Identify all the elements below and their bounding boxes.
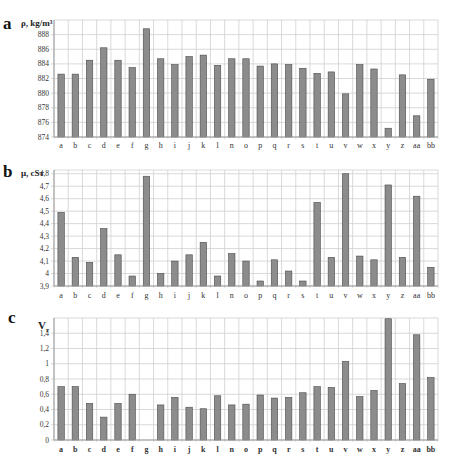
- bar-h: [157, 405, 163, 440]
- x-tick-label: c: [88, 445, 92, 454]
- x-tick-label: o: [244, 445, 248, 454]
- plot-area: 00,20,40,60,811,21,4abcdefghijklnopqrstu…: [40, 318, 438, 454]
- bar-w: [357, 397, 363, 440]
- x-tick-label: r: [287, 445, 291, 454]
- x-tick-label: j: [187, 445, 191, 454]
- bar-r: [285, 397, 291, 440]
- bar-e: [115, 403, 121, 440]
- x-tick-label: x: [372, 445, 376, 454]
- x-tick-label: u: [329, 445, 334, 454]
- bar-y: [385, 319, 391, 440]
- y-tick-label: 0,2: [40, 420, 50, 429]
- x-tick-label: f: [131, 445, 134, 454]
- x-tick-label: d: [102, 445, 107, 454]
- y-tick-label: 0,6: [40, 390, 50, 399]
- x-tick-label: h: [158, 445, 163, 454]
- x-tick-label: n: [230, 445, 235, 454]
- bar-o: [243, 404, 249, 440]
- bar-bb: [428, 377, 434, 440]
- bar-x: [371, 390, 377, 440]
- y-tick-label: 1,2: [40, 344, 50, 353]
- x-tick-label: w: [357, 445, 363, 454]
- bar-i: [172, 397, 178, 440]
- x-tick-label: t: [316, 445, 319, 454]
- x-tick-label: s: [301, 445, 304, 454]
- bar-j: [186, 407, 192, 440]
- bar-l: [214, 396, 220, 440]
- x-tick-label: g: [144, 445, 148, 454]
- x-tick-label: a: [59, 445, 63, 454]
- bar-s: [300, 393, 306, 440]
- y-tick-label: 0,4: [40, 405, 50, 414]
- bar-p: [257, 395, 263, 440]
- bar-d: [101, 417, 107, 440]
- x-tick-label: l: [216, 445, 219, 454]
- x-tick-label: z: [401, 445, 405, 454]
- y-tick-label: 1,4: [40, 329, 50, 338]
- bar-aa: [413, 335, 419, 440]
- x-tick-label: aa: [413, 445, 421, 454]
- x-tick-label: q: [272, 445, 277, 454]
- vr-bar-chart: 00,20,40,60,811,21,4abcdefghijklnopqrstu…: [0, 0, 454, 468]
- panel-c: c Vr 00,20,40,60,811,21,4abcdefghijklnop…: [0, 0, 454, 468]
- bar-k: [200, 409, 206, 440]
- bar-v: [342, 361, 348, 440]
- bar-b: [72, 387, 78, 440]
- y-tick-label: 0: [45, 436, 49, 445]
- x-tick-label: b: [73, 445, 78, 454]
- x-tick-label: k: [201, 445, 206, 454]
- y-tick-label: 1: [45, 359, 49, 368]
- x-tick-label: e: [116, 445, 120, 454]
- bar-a: [58, 387, 64, 440]
- x-tick-label: i: [174, 445, 177, 454]
- bar-q: [271, 398, 277, 440]
- bar-n: [229, 405, 235, 440]
- bar-c: [86, 403, 92, 440]
- x-tick-label: v: [344, 445, 348, 454]
- bar-u: [328, 387, 334, 440]
- x-tick-label: p: [258, 445, 263, 454]
- x-tick-label: y: [386, 445, 390, 454]
- bar-t: [314, 387, 320, 440]
- y-tick-label: 0,8: [40, 375, 50, 384]
- x-tick-label: bb: [426, 445, 435, 454]
- bar-z: [399, 384, 405, 440]
- bar-f: [129, 394, 135, 440]
